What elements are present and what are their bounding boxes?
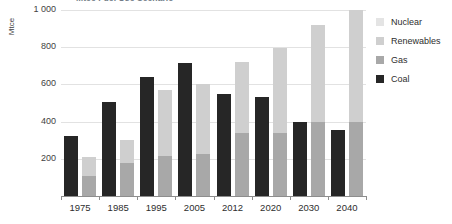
y-axis-tick-labels: 2004006008001 000	[6, 10, 56, 196]
bar-coal	[178, 63, 192, 196]
bar-groups	[61, 10, 367, 196]
legend-item[interactable]: Nuclear	[376, 12, 452, 31]
y-tick-label: 200	[10, 153, 56, 163]
bar-group	[99, 10, 137, 196]
legend-label: Coal	[391, 74, 410, 84]
x-tick-mark	[252, 196, 253, 200]
bar-group	[290, 10, 328, 196]
bar-stacked	[82, 157, 96, 196]
x-tick-mark	[290, 196, 291, 200]
bar-group	[137, 10, 175, 196]
bar-segment-renewables	[158, 90, 172, 156]
legend-label: Nuclear	[391, 17, 422, 27]
x-tick-label: 2040	[325, 202, 369, 213]
bar-segment-gas	[82, 176, 96, 196]
bar-segment-renewables	[120, 140, 134, 163]
bar-stacked	[311, 25, 325, 196]
bar-segment-renewables	[311, 25, 325, 122]
bar-coal	[331, 130, 345, 196]
bar-coal	[140, 77, 154, 196]
bar-stacked	[273, 48, 287, 196]
bar-coal	[217, 94, 231, 196]
x-tick-mark	[137, 196, 138, 200]
x-tick-mark	[214, 196, 215, 200]
legend-swatch-icon	[376, 56, 384, 64]
bar-group	[175, 10, 213, 196]
bar-coal	[255, 97, 269, 196]
legend-item[interactable]: Gas	[376, 50, 452, 69]
bar-segment-renewables	[349, 10, 363, 122]
x-tick-mark	[61, 196, 62, 200]
bar-segment-gas	[235, 133, 249, 196]
chart-title: Mtce Fuel Use Scenario	[76, 0, 174, 3]
bar-chart: Mtce Fuel Use Scenario Mtce 200400600800…	[0, 0, 452, 224]
bar-segment-renewables	[273, 48, 287, 133]
bar-segment-gas	[273, 133, 287, 196]
bar-group	[252, 10, 290, 196]
legend-swatch-icon	[376, 18, 384, 26]
bar-stacked	[120, 140, 134, 196]
y-tick-label: 400	[10, 116, 56, 126]
bar-segment-renewables	[82, 157, 96, 177]
legend-swatch-icon	[376, 37, 384, 45]
x-tick-mark	[328, 196, 329, 200]
bar-segment-gas	[120, 163, 134, 196]
legend-item[interactable]: Renewables	[376, 31, 452, 50]
x-tick-mark	[99, 196, 100, 200]
bar-stacked	[196, 84, 210, 196]
bar-segment-gas	[158, 156, 172, 196]
y-tick-label: 600	[10, 78, 56, 88]
x-tick-mark	[175, 196, 176, 200]
bar-segment-gas	[196, 154, 210, 196]
chart-legend: NuclearRenewablesGasCoal	[376, 12, 452, 88]
bar-group	[61, 10, 99, 196]
x-tick-mark	[366, 196, 367, 200]
y-tick-label: 800	[10, 41, 56, 51]
bar-coal	[102, 102, 116, 196]
bar-stacked	[235, 62, 249, 196]
y-tick-label: 1 000	[10, 4, 56, 14]
bar-stacked	[158, 90, 172, 196]
bar-group	[328, 10, 366, 196]
legend-label: Gas	[391, 55, 408, 65]
legend-swatch-icon	[376, 75, 384, 83]
bar-segment-gas	[349, 122, 363, 196]
bar-segment-renewables	[235, 62, 249, 133]
bar-segment-renewables	[196, 84, 210, 154]
legend-label: Renewables	[391, 36, 441, 46]
legend-item[interactable]: Coal	[376, 69, 452, 88]
bar-group	[214, 10, 252, 196]
bar-stacked	[349, 10, 363, 196]
bar-coal	[293, 122, 307, 196]
bar-coal	[64, 136, 78, 196]
bar-segment-gas	[311, 122, 325, 196]
